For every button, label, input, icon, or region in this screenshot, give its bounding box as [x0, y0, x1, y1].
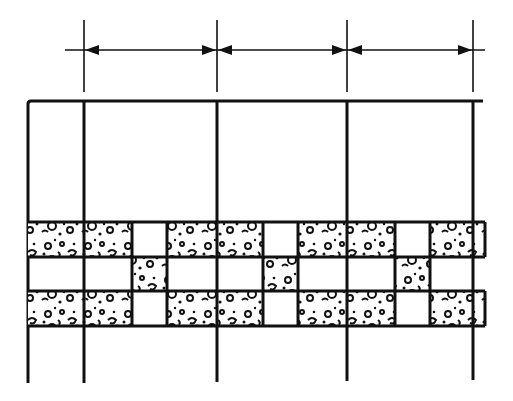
plain-block: [395, 291, 430, 326]
stone-block: [395, 257, 430, 291]
stone-block: [167, 291, 217, 326]
stone-block: [167, 222, 217, 257]
masonry-elevation-drawing: [0, 0, 513, 401]
stone-block: [298, 222, 347, 257]
stone-block: [84, 291, 132, 326]
plain-block: [263, 291, 298, 326]
plain-block: [132, 291, 167, 326]
stone-block: [84, 222, 132, 257]
stone-block: [28, 291, 84, 326]
stone-block: [217, 291, 263, 326]
stone-block: [347, 291, 395, 326]
stone-block: [430, 222, 485, 257]
stone-block: [347, 222, 395, 257]
stone-block: [132, 257, 167, 291]
stone-block: [298, 291, 347, 326]
stone-block: [263, 257, 298, 291]
stone-block: [430, 291, 485, 326]
stone-block: [28, 222, 84, 257]
stone-band: [28, 222, 485, 326]
dimension-line: [65, 20, 485, 92]
plain-block: [395, 222, 430, 257]
stone-block: [217, 222, 263, 257]
plain-block: [263, 222, 298, 257]
plain-block: [132, 222, 167, 257]
